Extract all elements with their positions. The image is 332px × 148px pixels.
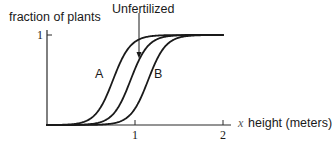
unfertilized-label: Unfertilized (112, 3, 175, 16)
x-axis-label: height (meters) (248, 117, 332, 130)
x-axis-symbol: x (238, 117, 243, 129)
x-tick-label-1: 1 (132, 129, 138, 141)
y-axis-label: fraction of plants (9, 11, 101, 24)
y-tick-label-1: 1 (37, 29, 43, 41)
curve-b-label: B (154, 68, 162, 81)
curve-a-label: A (95, 68, 103, 81)
x-tick-label-2: 2 (220, 129, 226, 141)
curve-b (47, 35, 223, 125)
curve-unfertilized (47, 35, 223, 125)
curve-a (47, 35, 223, 125)
curves (47, 35, 223, 125)
